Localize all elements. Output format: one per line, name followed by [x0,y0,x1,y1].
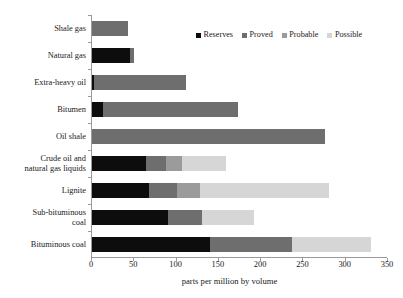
category-label: Shale gas [0,24,86,34]
y-axis-tick [88,231,91,232]
bar-segment [200,183,329,198]
y-axis-tick [88,123,91,124]
x-axis-line [91,257,387,258]
y-axis-tick [88,150,91,151]
x-axis-title-text: parts per million by volume [182,276,277,286]
x-axis-tick-label: 150 [212,260,225,269]
x-axis-tick-label: 300 [338,260,351,269]
bar-row [92,210,254,225]
bar-segment [202,210,254,225]
category-label: Sub-bituminous coal [0,208,86,227]
bar-row [92,75,186,90]
bar-row [92,183,329,198]
x-axis-tick-label: 100 [169,260,182,269]
category-label: Bituminous coal [0,240,86,250]
bar-row [92,237,371,252]
category-label: Extra-heavy oil [0,78,86,88]
bar-segment [92,210,168,225]
bar-segment [92,237,210,252]
bar-segment [210,237,292,252]
x-axis-tick-label: 250 [296,260,309,269]
y-axis-tick [88,177,91,178]
bar-row [92,102,238,117]
bar-segment [92,129,325,144]
x-axis-title: parts per million by volume [0,276,403,286]
bar-row [92,48,134,63]
bar-segment [146,156,165,171]
bar-segment [130,48,134,63]
stacked-bar-chart: Reserves Proved Probable Possible Shale … [0,0,403,298]
category-label: Bitumen [0,105,86,115]
y-axis-tick [88,204,91,205]
x-axis-tick-label: 50 [129,260,137,269]
bar-segment [103,102,238,117]
x-axis-tick-label: 350 [381,260,394,269]
bar-segment [92,21,128,36]
bar-segment [92,102,103,117]
bar-segment [92,183,149,198]
category-label: Crude oil and natural gas liquids [0,154,86,173]
bar-row [92,21,128,36]
y-axis-tick [88,96,91,97]
bar-segment [292,237,371,252]
x-axis-tick-label: 200 [254,260,267,269]
bar-row [92,129,325,144]
y-axis-tick [88,15,91,16]
bar-segment [166,156,183,171]
bar-segment [92,156,146,171]
bar-segment [182,156,226,171]
bar-row [92,156,226,171]
category-label: Oil shale [0,132,86,142]
plot-area [91,15,387,258]
y-axis-tick [88,42,91,43]
category-label: Natural gas [0,51,86,61]
y-axis-tick [88,69,91,70]
bar-segment [92,48,130,63]
bar-segment [94,75,186,90]
bar-segment [177,183,200,198]
bar-segment [168,210,202,225]
bar-segment [149,183,178,198]
category-label: Lignite [0,186,86,196]
x-axis-tick-label: 0 [89,260,93,269]
